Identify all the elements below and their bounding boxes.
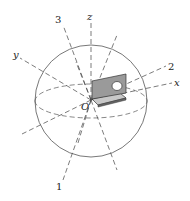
diagram-canvas: z 3 y 2 x 1 O (0, 0, 190, 201)
equator-front (35, 101, 147, 118)
axis-3-label: 3 (55, 14, 61, 25)
x-axis-label: x (174, 77, 180, 88)
axis-1-label: 1 (56, 181, 62, 192)
z-axis-label: z (86, 11, 93, 22)
bracket-part (92, 74, 126, 107)
coordinate-diagram: z 3 y 2 x 1 O (0, 0, 190, 201)
extra-dashed-line (76, 62, 91, 100)
y-axis (20, 58, 91, 100)
origin-label: O (81, 101, 89, 112)
axis-2-label: 2 (168, 61, 174, 72)
bracket-hole (112, 82, 122, 91)
y-axis-label: y (12, 49, 19, 60)
extra-dashed-line (91, 100, 117, 170)
